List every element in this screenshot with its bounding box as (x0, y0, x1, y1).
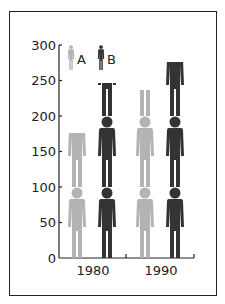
svg-text:200: 200 (31, 109, 56, 124)
svg-text:0: 0 (48, 251, 56, 266)
svg-text:300: 300 (31, 38, 56, 53)
pictogram-chart: 300 250 200 150 100 50 0 1980 1990 A B (0, 0, 225, 304)
bar-1980-a (68, 117, 86, 259)
y-tick-labels: 300 250 200 150 100 50 0 (31, 38, 56, 266)
x-label-1990: 1990 (144, 263, 177, 278)
legend-a-icon (68, 45, 74, 70)
bar-1990-b (166, 46, 184, 259)
bar-1990-a (136, 46, 154, 259)
svg-text:50: 50 (39, 215, 56, 230)
svg-text:250: 250 (31, 73, 56, 88)
svg-text:B: B (107, 52, 116, 67)
legend-b-icon (98, 45, 104, 70)
svg-text:A: A (77, 52, 86, 67)
x-label-1980: 1980 (76, 263, 109, 278)
bar-1980-b (98, 46, 116, 259)
svg-text:150: 150 (31, 144, 56, 159)
svg-text:100: 100 (31, 180, 56, 195)
y-axis (59, 45, 62, 258)
legend: A B (68, 45, 116, 70)
